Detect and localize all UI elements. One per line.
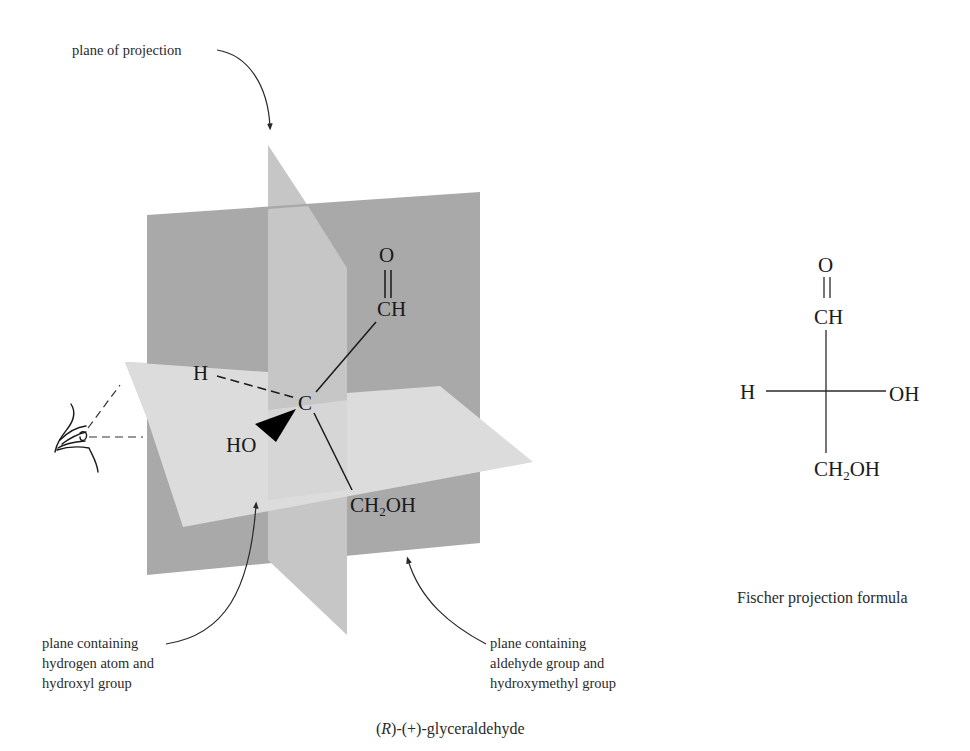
- fischer-group-oh: OH: [889, 383, 919, 405]
- label-plane-cho-line1: plane containing: [490, 633, 586, 653]
- label-plane-cho-line2: aldehyde group and: [490, 653, 604, 673]
- eye-icon: [55, 404, 98, 472]
- label-plane-h-oh-line3: hydroxyl group: [42, 673, 132, 693]
- label-plane-h-oh-line2: hydrogen atom and: [42, 653, 154, 673]
- atom-h-perspective: H: [193, 362, 208, 384]
- label-plane-of-projection: plane of projection: [72, 40, 182, 60]
- arrow-plane-cho-ch2oh: [408, 560, 486, 644]
- group-ho-perspective: HO: [226, 434, 256, 456]
- atom-o-perspective: O: [379, 244, 394, 266]
- fischer-atom-o: O: [818, 254, 833, 276]
- fischer-caption: Fischer projection formula: [737, 588, 908, 608]
- compound-caption: (R)-(+)-glyceraldehyde: [376, 720, 525, 738]
- group-ch-perspective: CH: [377, 298, 406, 320]
- vertical-plane-top: [268, 145, 308, 209]
- label-plane-h-oh-line1: plane containing: [42, 633, 138, 653]
- horizontal-plane-left-flap: [125, 362, 147, 418]
- fischer-atom-h: H: [740, 381, 755, 403]
- fischer-group-ch: CH: [814, 306, 843, 328]
- atom-c-center: C: [298, 392, 312, 414]
- group-ch2oh-perspective: CH2OH: [350, 494, 416, 516]
- diagram-canvas: [0, 0, 970, 751]
- vertical-plane-lower: [268, 490, 347, 635]
- sightline-upper: [88, 385, 120, 428]
- arrow-plane-of-projection: [217, 50, 270, 127]
- fischer-group-ch2oh: CH2OH: [814, 458, 880, 480]
- label-plane-cho-line3: hydroxymethyl group: [490, 673, 616, 693]
